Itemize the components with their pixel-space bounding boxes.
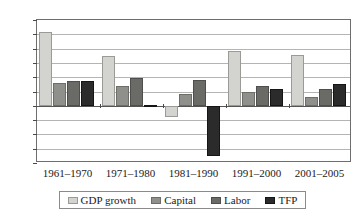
bar[interactable] (193, 80, 207, 106)
bar[interactable] (53, 83, 67, 106)
legend-item[interactable]: Labor (210, 194, 251, 206)
bar-groups (37, 20, 350, 161)
legend-item[interactable]: GDP growth (67, 194, 138, 206)
x-axis-label: 1961–1970 (36, 167, 99, 180)
bar[interactable] (130, 78, 144, 106)
bar[interactable] (242, 92, 256, 106)
bar-group (100, 20, 163, 161)
x-axis-label: 2001–2005 (288, 167, 351, 180)
x-axis-label: 1971–1980 (99, 167, 162, 180)
chart-legend: GDP growthCapitalLaborTFP (59, 191, 306, 209)
legend-label: Capital (164, 194, 196, 206)
legend-item[interactable]: Capital (150, 194, 197, 206)
bar[interactable] (256, 86, 270, 106)
bar[interactable] (291, 55, 305, 106)
bar[interactable] (165, 106, 179, 117)
bar[interactable] (116, 86, 130, 106)
x-axis-label: 1981–1990 (162, 167, 225, 180)
bar[interactable] (81, 81, 95, 106)
bar[interactable] (270, 89, 284, 106)
bar[interactable] (67, 81, 81, 106)
legend-swatch-icon (211, 197, 221, 204)
bar[interactable] (207, 106, 221, 156)
bar[interactable] (102, 56, 116, 106)
legend-swatch-icon (265, 197, 275, 204)
x-axis-label: 1991–2000 (225, 167, 288, 180)
legend-item[interactable]: TFP (264, 194, 298, 206)
legend-label: TFP (278, 194, 297, 206)
bar[interactable] (333, 84, 347, 106)
bar[interactable] (305, 97, 319, 106)
bar-chart: 6%5%4%3%2%1%0%−1%−2%−3%−4% 1961–19701971… (0, 0, 359, 218)
bar[interactable] (228, 51, 242, 105)
legend-label: GDP growth (81, 194, 137, 206)
x-axis-labels: 1961–19701971–19801981–19901991–20002001… (36, 167, 351, 183)
bar[interactable] (144, 105, 158, 107)
plot-area: 6%5%4%3%2%1%0%−1%−2%−3%−4% (36, 19, 351, 162)
bar[interactable] (319, 89, 333, 106)
bar-group (37, 20, 100, 161)
bar[interactable] (39, 32, 53, 106)
y-tick-mark (33, 163, 37, 164)
bar-group (226, 20, 289, 161)
legend-swatch-icon (68, 197, 78, 204)
bar-group (163, 20, 226, 161)
legend-swatch-icon (151, 197, 161, 204)
legend-label: Labor (224, 194, 250, 206)
bar[interactable] (179, 94, 193, 106)
bar-group (289, 20, 352, 161)
